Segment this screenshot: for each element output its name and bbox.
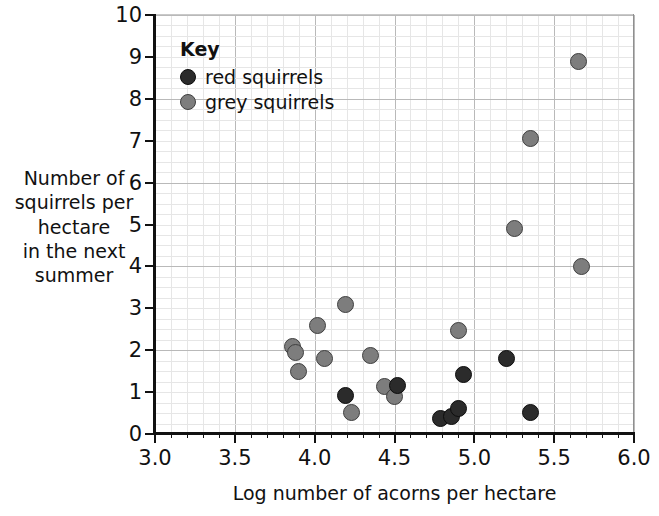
x-axis-tick-minor bbox=[171, 433, 172, 438]
data-point-grey bbox=[337, 296, 354, 313]
gridline-minor-horizontal bbox=[155, 172, 634, 173]
y-axis-tick-label: 0 bbox=[96, 422, 142, 446]
data-point-grey bbox=[573, 258, 590, 275]
gridline-minor-horizontal bbox=[155, 256, 634, 257]
x-axis-tick-label: 3.5 bbox=[205, 446, 265, 470]
x-axis-tick bbox=[234, 433, 236, 443]
y-axis-title-line-4: in the next bbox=[4, 239, 144, 263]
data-point-grey bbox=[570, 53, 587, 70]
data-point-red bbox=[522, 404, 539, 421]
y-axis-tick bbox=[145, 391, 155, 393]
gridline-minor-horizontal bbox=[155, 277, 634, 278]
y-axis-tick-label: 10 bbox=[96, 3, 142, 27]
gridline-minor-horizontal bbox=[155, 151, 634, 152]
x-axis-tick-minor bbox=[363, 433, 364, 438]
gridline-minor-horizontal bbox=[155, 298, 634, 299]
x-axis-tick bbox=[473, 433, 475, 443]
x-axis-tick-minor bbox=[410, 433, 411, 438]
gridline-minor-horizontal bbox=[155, 141, 634, 142]
data-point-grey bbox=[450, 322, 467, 339]
gridline-minor-horizontal bbox=[155, 162, 634, 163]
y-axis-tick-label: 9 bbox=[96, 45, 142, 69]
gridline-minor-horizontal bbox=[155, 235, 634, 236]
x-axis-tick-minor bbox=[426, 433, 427, 438]
x-axis-tick-label: 4.0 bbox=[285, 446, 345, 470]
x-axis-tick-minor bbox=[442, 433, 443, 438]
x-axis-tick-minor bbox=[187, 433, 188, 438]
legend-label-red: red squirrels bbox=[205, 66, 323, 88]
gridline-minor-horizontal bbox=[155, 25, 634, 26]
y-axis-tick-label: 8 bbox=[96, 87, 142, 111]
x-axis-tick-minor bbox=[618, 433, 619, 438]
data-point-grey bbox=[343, 404, 360, 421]
data-point-grey bbox=[287, 344, 304, 361]
data-point-grey bbox=[309, 317, 326, 334]
legend-marker-grey-icon bbox=[180, 94, 196, 110]
y-axis-tick bbox=[145, 56, 155, 58]
x-axis-tick bbox=[394, 433, 396, 443]
x-axis-tick-label: 4.5 bbox=[365, 446, 425, 470]
data-point-grey bbox=[362, 347, 379, 364]
gridline-major-horizontal bbox=[155, 266, 634, 267]
y-axis-title-line-5: summer bbox=[4, 263, 144, 287]
data-point-red bbox=[455, 366, 472, 383]
y-axis-title: Number of squirrels per hectare in the n… bbox=[4, 166, 144, 288]
data-point-grey bbox=[506, 220, 523, 237]
data-point-grey bbox=[522, 130, 539, 147]
y-axis-title-line-1: Number of bbox=[4, 166, 144, 190]
gridline-major-horizontal bbox=[155, 350, 634, 351]
x-axis-tick-minor bbox=[522, 433, 523, 438]
data-point-red bbox=[450, 400, 467, 417]
x-axis-tick bbox=[633, 433, 635, 443]
gridline-minor-horizontal bbox=[155, 424, 634, 425]
y-axis-tick bbox=[145, 14, 155, 16]
x-axis-tick-label: 5.5 bbox=[524, 446, 584, 470]
y-axis-tick-label: 3 bbox=[96, 296, 142, 320]
x-axis-title: Log number of acorns per hectare bbox=[155, 482, 634, 504]
data-point-red bbox=[337, 387, 354, 404]
y-axis-title-line-3: hectare bbox=[4, 215, 144, 239]
y-axis-tick bbox=[145, 349, 155, 351]
x-axis-tick-minor bbox=[203, 433, 204, 438]
legend-label-grey: grey squirrels bbox=[205, 91, 334, 113]
y-axis-tick bbox=[145, 224, 155, 226]
x-axis-tick-minor bbox=[347, 433, 348, 438]
gridline-minor-horizontal bbox=[155, 225, 634, 226]
gridline-minor-horizontal bbox=[155, 371, 634, 372]
y-axis-tick bbox=[145, 140, 155, 142]
gridline-minor-horizontal bbox=[155, 319, 634, 320]
y-axis-tick-label: 7 bbox=[96, 129, 142, 153]
y-axis-title-line-2: squirrels per bbox=[4, 190, 144, 214]
gridline-minor-horizontal bbox=[155, 245, 634, 246]
gridline-minor-horizontal bbox=[155, 193, 634, 194]
x-axis-tick-minor bbox=[283, 433, 284, 438]
plot-top-border bbox=[155, 14, 634, 15]
x-axis-tick-label: 3.0 bbox=[125, 446, 185, 470]
x-axis-tick-minor bbox=[267, 433, 268, 438]
y-axis-tick-label: 1 bbox=[96, 380, 142, 404]
y-axis-tick bbox=[145, 307, 155, 309]
gridline-minor-horizontal bbox=[155, 361, 634, 362]
x-axis-tick-minor bbox=[219, 433, 220, 438]
x-axis-tick-minor bbox=[379, 433, 380, 438]
gridline-minor-horizontal bbox=[155, 214, 634, 215]
gridline-minor-horizontal bbox=[155, 413, 634, 414]
x-axis-tick bbox=[154, 433, 156, 443]
data-point-grey bbox=[316, 350, 333, 367]
y-axis-tick-label: 2 bbox=[96, 338, 142, 362]
x-axis-tick bbox=[553, 433, 555, 443]
legend-title: Key bbox=[180, 38, 350, 60]
x-axis-tick-minor bbox=[331, 433, 332, 438]
x-axis-tick-minor bbox=[490, 433, 491, 438]
x-axis-tick-minor bbox=[299, 433, 300, 438]
gridline-minor-horizontal bbox=[155, 36, 634, 37]
gridline-minor-horizontal bbox=[155, 329, 634, 330]
x-axis-tick-label: 6.0 bbox=[604, 446, 659, 470]
y-axis-tick bbox=[145, 98, 155, 100]
y-axis-tick bbox=[145, 182, 155, 184]
gridline-minor-horizontal bbox=[155, 308, 634, 309]
x-axis-tick-minor bbox=[570, 433, 571, 438]
data-point-grey bbox=[290, 363, 307, 380]
x-axis-tick-minor bbox=[602, 433, 603, 438]
gridline-minor-horizontal bbox=[155, 340, 634, 341]
